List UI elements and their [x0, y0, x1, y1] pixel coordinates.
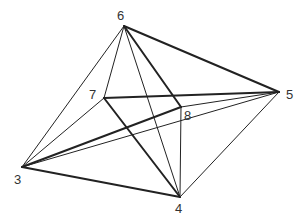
vertex-label-6: 6 [117, 8, 124, 23]
edge-3-5 [22, 92, 279, 167]
vertex-label-5: 5 [286, 87, 293, 102]
edge-7-4 [104, 98, 180, 197]
polyhedron-diagram: 345678 [0, 0, 308, 223]
edge-8-3 [22, 107, 181, 167]
vertex-label-8: 8 [184, 108, 191, 123]
edge-4-5 [180, 92, 279, 197]
edge-3-4 [22, 167, 180, 197]
vertex-label-3: 3 [14, 172, 21, 187]
edges-group [22, 26, 279, 197]
edge-6-3 [22, 26, 124, 167]
edge-7-3 [22, 98, 104, 167]
vertex-label-7: 7 [89, 87, 96, 102]
vertex-label-4: 4 [175, 201, 182, 216]
edge-7-5 [104, 92, 279, 98]
edge-6-7 [104, 26, 124, 98]
